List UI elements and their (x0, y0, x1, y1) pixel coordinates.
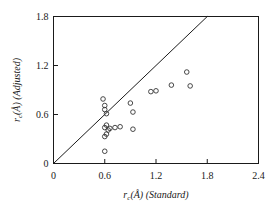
y-tick-label-0: 0 (28, 159, 49, 169)
y-tick-label-3: 1.8 (28, 12, 49, 22)
scatter-chart-figure: 00.61.21.82.4 00.61.21.8 rc(Å) (Standard… (0, 0, 276, 210)
x-tick-label-3: 1.8 (201, 171, 214, 181)
data-point (101, 97, 106, 102)
data-point (169, 83, 174, 88)
data-point (102, 149, 107, 154)
axes-group (54, 17, 259, 164)
data-point (131, 110, 136, 115)
data-point (113, 125, 118, 130)
identity-reference-line (54, 17, 208, 164)
y-axis-title: rc(Å) (Adjusted) (12, 58, 24, 122)
data-point (118, 124, 123, 129)
y-axis-qualifier: (Adjusted) (11, 58, 22, 100)
data-points-group (101, 70, 193, 154)
y-axis-symbol: r (11, 118, 22, 122)
y-axis-subscript: c (16, 115, 24, 118)
x-tick-label-0: 0 (51, 171, 56, 181)
data-point (149, 89, 154, 94)
data-point (131, 127, 136, 132)
x-axis-unit: (Å) (130, 189, 143, 200)
data-point (104, 111, 109, 116)
x-tick-label-2: 1.2 (150, 171, 163, 181)
x-axis-title: rc(Å) (Standard) (123, 190, 188, 202)
data-point (184, 70, 189, 75)
data-point (188, 84, 193, 89)
y-tick-label-2: 1.2 (28, 61, 49, 71)
x-tick-label-1: 0.6 (99, 171, 112, 181)
y-tick-label-1: 0.6 (28, 110, 49, 120)
axis-ticks-group (54, 66, 208, 164)
data-point (128, 101, 133, 106)
x-tick-label-4: 2.4 (252, 171, 265, 181)
plot-frame (54, 17, 259, 164)
plot-canvas (0, 0, 276, 210)
y-axis-unit: (Å) (11, 102, 22, 115)
data-point (154, 89, 159, 94)
x-axis-qualifier: (Standard) (146, 189, 189, 200)
